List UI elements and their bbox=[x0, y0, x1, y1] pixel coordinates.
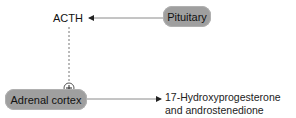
product-line-2: and androstenedione bbox=[165, 104, 281, 117]
pituitary-label: Pituitary bbox=[167, 11, 207, 23]
acth-label: ACTH bbox=[53, 12, 83, 24]
adrenal-cortex-label: Adrenal cortex bbox=[11, 94, 82, 106]
product-line-1: 17-Hydroxyprogesterone bbox=[165, 91, 281, 104]
product-label: 17-Hydroxyprogesterone and androstenedio… bbox=[165, 91, 281, 117]
adrenal-cortex-node: Adrenal cortex bbox=[5, 89, 87, 110]
pituitary-node: Pituitary bbox=[163, 6, 211, 27]
